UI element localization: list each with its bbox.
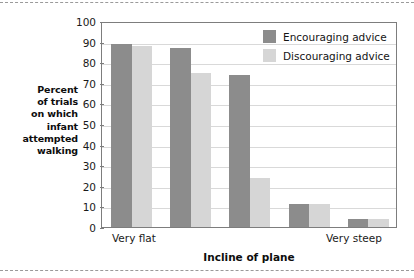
y-axis-tick-label: 40 bbox=[56, 140, 96, 152]
y-axis-tick-mark bbox=[100, 22, 104, 23]
x-tick-label-very-flat: Very flat bbox=[112, 232, 156, 244]
page-bottom-dashed-divider bbox=[0, 270, 414, 271]
legend-color-swatch bbox=[263, 49, 276, 62]
y-axis-tick-mark bbox=[100, 63, 104, 64]
y-axis-tick-mark bbox=[100, 84, 104, 85]
bar-chart-figure: Percentof trialson whichinfantattemptedw… bbox=[0, 0, 414, 278]
y-axis-tick-label: 10 bbox=[56, 201, 96, 213]
y-axis-tick-mark bbox=[100, 187, 104, 188]
y-axis-tick-label: 100 bbox=[56, 16, 96, 28]
y-axis-tick-label: 70 bbox=[56, 78, 96, 90]
x-axis-title: Incline of plane bbox=[101, 251, 397, 263]
y-axis-tick-mark bbox=[100, 166, 104, 167]
legend-color-swatch bbox=[263, 30, 276, 43]
y-axis-tick-label: 80 bbox=[56, 57, 96, 69]
chart-legend: Encouraging adviceDiscouraging advice bbox=[263, 28, 411, 66]
y-axis-tick-mark bbox=[100, 207, 104, 208]
y-axis-tick-mark bbox=[100, 146, 104, 147]
x-tick-label-very-steep: Very steep bbox=[326, 232, 382, 244]
y-axis-tick-label: 90 bbox=[56, 37, 96, 49]
y-axis-tick-label: 50 bbox=[56, 119, 96, 131]
y-axis-tick-mark bbox=[100, 43, 104, 44]
legend-item-label: Discouraging advice bbox=[283, 50, 390, 62]
legend-item: Encouraging advice bbox=[263, 28, 411, 45]
y-axis-tick-label: 0 bbox=[56, 222, 96, 234]
y-axis-tick-mark bbox=[100, 228, 104, 229]
legend-item-label: Encouraging advice bbox=[283, 31, 387, 43]
y-axis-tick-label: 20 bbox=[56, 181, 96, 193]
y-axis-tick-label: 30 bbox=[56, 160, 96, 172]
y-axis-tick-label: 60 bbox=[56, 98, 96, 110]
y-axis-tick-mark bbox=[100, 125, 104, 126]
legend-item: Discouraging advice bbox=[263, 47, 411, 64]
y-axis-tick-mark bbox=[100, 104, 104, 105]
